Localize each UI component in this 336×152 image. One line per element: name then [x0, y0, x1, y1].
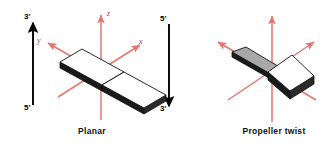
- axis-label-y: y: [37, 36, 41, 45]
- strand-label-left-bottom: 5': [24, 103, 30, 112]
- strand-label-right-bottom: 3': [160, 104, 166, 113]
- axis-label-z: z: [107, 9, 110, 18]
- caption-propeller-twist: Propeller twist: [228, 126, 320, 136]
- caption-planar: Planar: [52, 126, 132, 136]
- strand-label-left-top: 3': [24, 12, 30, 21]
- axis-label-x: x: [139, 37, 143, 46]
- strand-label-right-top: 5': [160, 14, 166, 23]
